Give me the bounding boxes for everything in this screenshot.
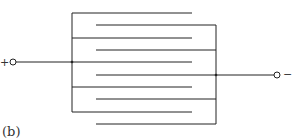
figure-caption: (b)	[2, 124, 20, 139]
negative-terminal-label: −	[283, 68, 292, 81]
positive-terminal-label: +	[0, 56, 9, 69]
positive-terminal-icon	[10, 59, 16, 65]
positive-junction-dot	[71, 61, 74, 64]
capacitor-diagram: + − (b)	[0, 0, 308, 140]
negative-terminal-icon	[274, 72, 280, 78]
negative-junction-dot	[215, 74, 218, 77]
